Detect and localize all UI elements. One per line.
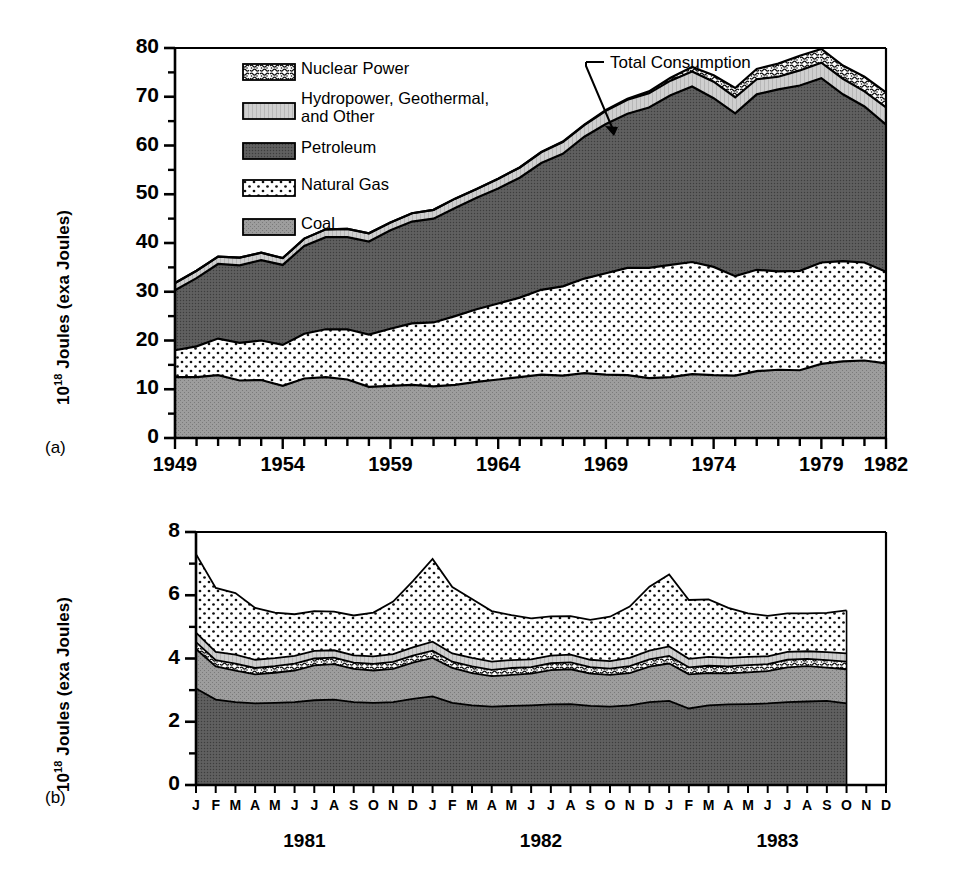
x-tick-label: 1969 — [556, 453, 656, 476]
y-tick-label: 0 — [87, 424, 159, 448]
y-axis-exp-b: 18 — [52, 760, 64, 772]
x-tick-label: 1982 — [836, 453, 936, 476]
legend-label-petroleum: Petroleum — [301, 138, 376, 156]
x-tick-label: 1974 — [664, 453, 764, 476]
month-label: D — [872, 797, 900, 813]
figure-root: (a) 1018 Joules (exa Joules) 01020304050… — [0, 0, 958, 890]
year-label: 1981 — [244, 830, 364, 852]
x-tick-label: 1964 — [448, 453, 548, 476]
y-tick-label: 2 — [110, 708, 180, 732]
legend-swatch-gas — [243, 180, 295, 196]
y-tick-label: 50 — [87, 180, 159, 204]
panel-b: (b) 1018 Joules (exa Joules) 02468JFMAMJ… — [0, 490, 958, 890]
legend-swatch-coal — [243, 219, 295, 235]
y-axis-rest-a: Joules (exa Joules) — [54, 210, 73, 374]
legend-label-line1: Hydropower, Geothermal, — [301, 89, 489, 107]
legend-swatch-hydro — [243, 103, 295, 119]
y-axis-base-b: 10 — [54, 773, 73, 792]
y-tick-label: 70 — [87, 83, 159, 107]
year-label: 1982 — [481, 830, 601, 852]
panel-a: (a) 1018 Joules (exa Joules) 01020304050… — [0, 0, 958, 490]
y-tick-label: 40 — [87, 229, 159, 253]
y-tick-label: 80 — [87, 34, 159, 58]
legend-label-gas: Natural Gas — [301, 175, 389, 193]
legend-label-line2: and Other — [301, 107, 489, 125]
y-tick-label: 30 — [87, 278, 159, 302]
y-tick-label: 20 — [87, 327, 159, 351]
x-tick-label: 1959 — [340, 453, 440, 476]
y-tick-label: 60 — [87, 132, 159, 156]
legend-swatch-petroleum — [243, 143, 295, 159]
y-tick-label: 6 — [110, 581, 180, 605]
total-consumption-annotation: Total Consumption — [610, 53, 751, 73]
year-label: 1983 — [718, 830, 838, 852]
area-gas — [196, 554, 847, 662]
y-tick-label: 10 — [87, 375, 159, 399]
y-axis-exp-a: 18 — [52, 373, 64, 385]
y-tick-label: 4 — [110, 645, 180, 669]
y-axis-base-a: 10 — [54, 386, 73, 405]
legend-label-nuclear: Nuclear Power — [301, 59, 409, 77]
legend-label-coal: Coal — [301, 214, 335, 232]
y-tick-label: 0 — [110, 771, 180, 795]
x-tick-label: 1954 — [233, 453, 333, 476]
x-tick-label: 1949 — [125, 453, 225, 476]
legend-swatch-nuclear — [243, 64, 295, 80]
panel-a-letter: (a) — [45, 438, 66, 458]
panel-b-y-axis-title: 1018 Joules (exa Joules) — [52, 597, 74, 792]
legend-label-hydro: Hydropower, Geothermal,and Other — [301, 89, 489, 125]
panel-a-y-axis-title: 1018 Joules (exa Joules) — [52, 210, 74, 405]
y-axis-rest-b: Joules (exa Joules) — [54, 597, 73, 761]
y-tick-label: 8 — [110, 518, 180, 542]
boundary-gas — [196, 554, 847, 620]
